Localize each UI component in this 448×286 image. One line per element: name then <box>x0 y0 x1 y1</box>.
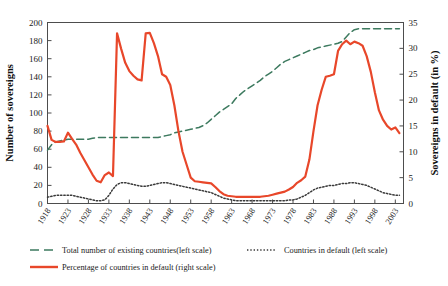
x-tick-label: 1988 <box>322 206 339 226</box>
y2-tick-label: 25 <box>409 69 419 79</box>
y-tick-label: 40 <box>34 162 44 172</box>
y2-tick-label: 35 <box>409 18 419 28</box>
y2-tick-label: 20 <box>409 95 419 105</box>
chart-legend: Total number of existing countries(left … <box>30 246 387 272</box>
x-tick-label: 1948 <box>158 206 175 226</box>
y2-tick-label: 30 <box>409 43 419 53</box>
x-tick-label: 1923 <box>56 206 73 226</box>
x-tick-label: 1938 <box>117 206 134 226</box>
x-tick-label: 1933 <box>97 206 114 226</box>
x-tick-label: 1928 <box>76 206 93 226</box>
y-axis-title: Number of sovereigns <box>4 64 15 162</box>
y-tick-label: 100 <box>29 108 43 118</box>
x-tick-label: 1998 <box>363 206 380 226</box>
y-tick-label: 200 <box>29 18 43 28</box>
y-tick-label: 140 <box>29 72 43 82</box>
plot-frame <box>48 23 404 204</box>
x-tick-label: 1983 <box>301 206 318 226</box>
legend-label-2: Countries in default (left scale) <box>284 246 387 255</box>
data-series-layer <box>48 29 400 201</box>
x-tick-label: 1918 <box>35 206 52 226</box>
series-line-2 <box>48 183 400 201</box>
y-tick-label: 20 <box>34 180 44 190</box>
y-tick-label: 180 <box>29 36 43 46</box>
x-tick-label: 1963 <box>219 206 236 226</box>
y2-tick-label: 10 <box>409 147 419 157</box>
y2-tick-label: 5 <box>409 173 414 183</box>
y-tick-label: 120 <box>29 90 43 100</box>
x-tick-label: 2003 <box>383 206 400 226</box>
x-tick-label: 1953 <box>178 206 195 226</box>
right-axis-ticks: 05101520253035 <box>400 18 419 209</box>
sovereign-default-chart: 020406080100120140160180200 051015202530… <box>0 0 448 286</box>
series-line-1 <box>48 29 400 150</box>
legend-label-1: Total number of existing countries(left … <box>62 246 212 255</box>
x-tick-label: 1943 <box>138 206 155 226</box>
y2-tick-label: 15 <box>409 121 419 131</box>
legend-label-3: Percentage of countries in default (righ… <box>62 263 216 272</box>
y-tick-label: 60 <box>34 144 44 154</box>
series-line-3 <box>48 33 400 197</box>
y-tick-label: 80 <box>34 126 44 136</box>
x-tick-label: 1973 <box>260 206 277 226</box>
x-tick-label: 1978 <box>281 206 298 226</box>
y2-tick-label: 0 <box>409 199 414 209</box>
x-tick-label: 1968 <box>240 206 257 226</box>
x-tick-label: 1958 <box>199 206 216 226</box>
left-axis-ticks: 020406080100120140160180200 <box>29 18 52 209</box>
y2-axis-title: Sovereigns in default (in %) <box>429 50 441 176</box>
plot-area-border <box>48 23 404 204</box>
y-tick-label: 160 <box>29 54 43 64</box>
x-tick-label: 1993 <box>342 206 359 226</box>
y-tick-label: 0 <box>38 199 43 209</box>
chart-figure: 020406080100120140160180200 051015202530… <box>0 0 448 286</box>
